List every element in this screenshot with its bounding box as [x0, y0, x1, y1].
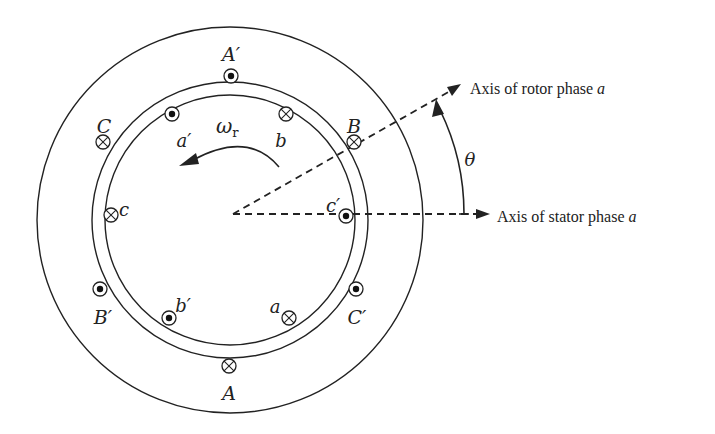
conductor-a-prime: a′: [165, 107, 191, 151]
conductor-label-C: C: [97, 115, 112, 137]
conductor-label-A-prime: A′: [220, 43, 241, 65]
rotor-speed-arrow: [179, 147, 279, 167]
theta-label: θ: [465, 149, 476, 170]
rotor-speed-label: ωr: [216, 114, 239, 140]
theta-arrowhead-icon: [432, 99, 444, 117]
conductor-c-prime: c′: [326, 195, 353, 223]
conductor-label-B-prime: B′: [93, 306, 113, 328]
conductor-b: b: [275, 107, 293, 151]
rotor-speed-arrowhead-icon: [179, 153, 199, 166]
conductor-A: A: [220, 359, 236, 404]
conductor-A-prime: A′: [220, 43, 241, 83]
current-out-dot-icon: [349, 282, 363, 296]
rotor-conductors: a′bcc′b′a: [104, 107, 353, 325]
theta-arc-line: [440, 110, 464, 214]
current-in-cross-icon: [282, 311, 296, 325]
stator-axis: [233, 209, 490, 219]
conductor-a: a: [270, 296, 296, 325]
rotor-axis-label-text: Axis of rotor phase: [470, 80, 597, 98]
current-in-cross-icon: [347, 135, 361, 149]
current-out-dot-icon: [162, 311, 176, 325]
rotor-speed-arc: [193, 147, 279, 167]
conductor-C: C: [96, 115, 112, 149]
conductor-label-b-prime: b′: [175, 295, 191, 316]
rotor-axis-arrowhead-icon: [447, 84, 461, 96]
current-in-cross-icon: [222, 359, 236, 373]
stator-axis-label-var: a: [629, 208, 637, 225]
current-in-cross-icon: [96, 135, 110, 149]
stator-conductors: A′CBB′C′A: [93, 43, 367, 404]
current-out-dot-icon: [165, 107, 179, 121]
conductor-label-A: A: [220, 382, 236, 404]
current-out-dot-icon: [339, 209, 353, 223]
conductor-label-C-prime: C′: [348, 306, 368, 328]
conductor-label-a: a: [270, 296, 281, 317]
rotor-axis: [233, 84, 461, 214]
rotor-axis-line: [233, 90, 452, 214]
conductor-label-B: B: [346, 115, 361, 137]
rotor-axis-label: Axis of rotor phase a: [470, 80, 605, 98]
stator-axis-label-text: Axis of stator phase: [497, 208, 629, 226]
current-out-dot-icon: [224, 69, 238, 83]
omega-subscript: r: [232, 125, 239, 140]
conductor-C-prime: C′: [348, 282, 368, 328]
stator-outer-ring: [37, 27, 423, 413]
stator-axis-label: Axis of stator phase a: [497, 208, 637, 226]
current-in-cross-icon: [279, 107, 293, 121]
conductor-label-c-prime: c′: [326, 195, 340, 216]
conductor-c: c: [104, 199, 129, 222]
induction-machine-diagram: A′CBB′C′A a′bcc′b′a ωr θ Axis of rotor p…: [0, 0, 715, 434]
conductor-label-c: c: [119, 199, 129, 220]
conductor-label-b: b: [275, 130, 287, 151]
conductor-label-a-prime: a′: [177, 130, 192, 151]
current-in-cross-icon: [104, 208, 118, 222]
theta-arc: [432, 99, 469, 214]
stator-axis-arrowhead-icon: [476, 209, 490, 219]
conductor-b-prime: b′: [162, 295, 191, 325]
omega-symbol: ω: [216, 114, 232, 138]
rotor-axis-label-var: a: [597, 80, 605, 97]
current-out-dot-icon: [93, 282, 107, 296]
conductor-B: B: [346, 115, 361, 149]
